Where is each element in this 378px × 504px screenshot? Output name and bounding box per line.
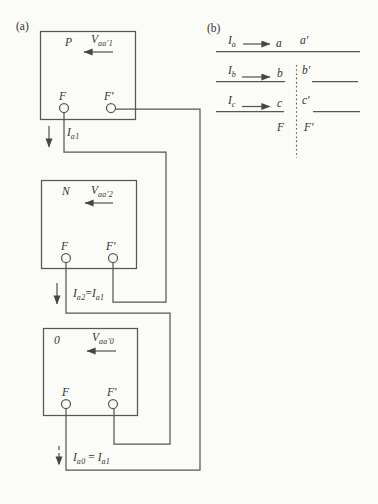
- voltage-sub: aa′2: [98, 190, 113, 199]
- phase-c-prime-terminal-label: c′: [302, 94, 310, 107]
- negative-F-label: F: [61, 240, 68, 253]
- part-a-tag: (a): [16, 20, 29, 33]
- voltage-base: V: [92, 331, 99, 343]
- negative-F-terminal: [62, 254, 71, 263]
- zero-Fprime-terminal: [109, 400, 118, 409]
- negative-sequence-box: [42, 181, 137, 269]
- part-b-geometry: [216, 44, 360, 158]
- current-sub2: a1: [102, 457, 111, 466]
- wire-positiveF-to-negativeFprime: [64, 113, 166, 303]
- current-sub2: a1: [96, 293, 105, 302]
- equals-sign: =: [85, 451, 97, 463]
- zero-F-terminal: [62, 400, 71, 409]
- voltage-label-positive: Vaa′1: [91, 33, 113, 46]
- part-b-tag: (b): [207, 22, 220, 35]
- voltage-base: V: [91, 33, 98, 45]
- negative-Fprime-label: F′: [106, 240, 116, 253]
- phase-b-current-label: Ib: [228, 64, 236, 77]
- phase-a-current-label: Ia: [228, 34, 236, 47]
- current-label-Ia2: Ia2=Ia1: [73, 287, 104, 300]
- negative-network-name: N: [62, 185, 70, 198]
- zero-Fprime-label: F′: [107, 386, 117, 399]
- current-sub: a1: [71, 132, 80, 141]
- current-sub: a: [232, 40, 236, 49]
- voltage-label-negative: Vaa′2: [91, 184, 113, 197]
- phase-c-current-label: Ic: [228, 94, 236, 107]
- zero-network-name: 0: [54, 334, 60, 347]
- current-label-Ia0: Ia0 = Ia1: [73, 451, 110, 464]
- zero-F-label: F: [62, 386, 69, 399]
- voltage-base: V: [91, 184, 98, 196]
- current-label-Ia1: Ia1: [67, 126, 79, 139]
- fault-F-label: F: [277, 121, 284, 134]
- current-sub: b: [232, 70, 236, 79]
- positive-Fprime-terminal: [107, 104, 116, 113]
- voltage-sub: aa′1: [98, 39, 113, 48]
- positive-F-terminal: [60, 104, 69, 113]
- positive-sequence-box: [41, 32, 136, 120]
- voltage-label-zero: Vaa′0: [92, 331, 114, 344]
- terminal-circles: [60, 104, 118, 409]
- current-sub: c: [232, 100, 236, 109]
- phase-c-terminal-label: c: [277, 97, 282, 110]
- phase-b-terminal-label: b: [277, 67, 283, 80]
- diagram-svg: [0, 0, 378, 504]
- fault-Fprime-label: F′: [304, 121, 314, 134]
- positive-network-name: P: [65, 36, 73, 49]
- phase-b-prime-terminal-label: b′: [302, 64, 310, 77]
- phase-a-terminal-label: a: [276, 37, 282, 50]
- voltage-sub: aa′0: [99, 337, 114, 346]
- negative-Fprime-terminal: [109, 254, 118, 263]
- positive-Fprime-label: F′: [104, 90, 114, 103]
- figure-canvas: (a) P Vaa′1 F F′ Ia1 N Vaa′2 F F′ Ia2=Ia…: [0, 0, 378, 504]
- phase-a-prime-terminal-label: a′: [300, 34, 308, 47]
- positive-F-label: F: [59, 90, 66, 103]
